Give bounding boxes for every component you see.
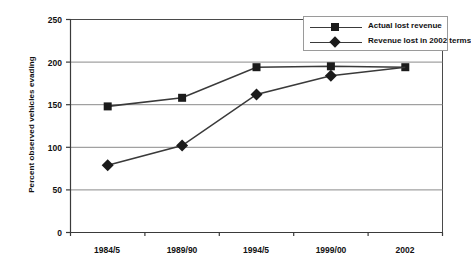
x-axis: [71, 233, 443, 237]
square-marker-icon: [331, 23, 339, 31]
data-point-marker: [253, 63, 261, 71]
data-point-marker: [104, 102, 112, 110]
diamond-marker-icon: [329, 36, 340, 47]
x-tick-label-1994-5: 1994/5: [221, 245, 291, 255]
x-tick-label-2002: 2002: [370, 245, 440, 255]
x-tick-label-1999-00: 1999/00: [296, 245, 366, 255]
x-tick-label-1989-90: 1989/90: [147, 245, 217, 255]
chart-legend: Actual lost revenue Revenue lost in 2002…: [303, 16, 448, 51]
x-tick-label-1984-5: 1984/5: [72, 245, 142, 255]
legend-item-revenue-lost-in-2002-terms: Revenue lost in 2002 terms: [304, 35, 449, 50]
data-point-marker: [327, 62, 335, 70]
data-point-marker: [178, 94, 186, 102]
y-axis: [66, 20, 71, 233]
legend-label: Revenue lost in 2002 terms: [368, 36, 471, 45]
legend-item-actual-lost-revenue: Actual lost revenue: [304, 20, 449, 35]
plot-area-frame: [71, 20, 443, 233]
legend-label: Actual lost revenue: [368, 21, 442, 30]
